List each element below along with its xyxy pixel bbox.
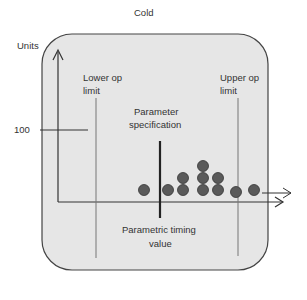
data-dot	[231, 187, 242, 198]
spec-label-2: specification	[129, 119, 181, 131]
data-dot	[249, 185, 260, 196]
data-dot	[178, 173, 189, 184]
data-dot	[198, 161, 209, 172]
title: Cold	[134, 7, 154, 19]
lower-limit-label-2: limit	[83, 85, 100, 97]
upper-limit-label-2: limit	[220, 85, 237, 97]
data-dot	[178, 185, 189, 196]
lower-limit-label-1: Lower op	[83, 72, 122, 84]
diagram-canvas	[0, 0, 307, 300]
spec-label-1: Parameter	[134, 106, 178, 118]
data-dot	[139, 185, 150, 196]
data-dot	[213, 185, 224, 196]
x-label-1: Parametric timing	[122, 224, 196, 236]
data-dot	[213, 173, 224, 184]
tick-label: 100	[14, 124, 30, 136]
upper-limit-label-1: Upper op	[220, 72, 259, 84]
x-label-2: value	[149, 238, 172, 250]
data-dot	[198, 173, 209, 184]
y-axis-label: Units	[17, 40, 39, 52]
data-dot	[163, 185, 174, 196]
data-dot	[198, 185, 209, 196]
